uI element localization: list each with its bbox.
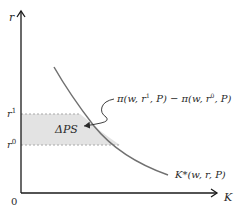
annotation-label: π(w, r1, P) − π(w, r0, P) — [116, 92, 231, 104]
origin-label: 0 — [11, 196, 17, 207]
curve-label: K*(w, r, P) — [174, 169, 226, 180]
y-axis-label: r — [9, 11, 15, 24]
area-label: ΔPS — [54, 123, 78, 136]
r1-label: r1 — [7, 107, 16, 119]
producer-surplus-diagram: r K 0 r1 r0 ΔPS K*(w, r, P) π(w, r1, P) … — [0, 0, 248, 211]
r0-label: r0 — [7, 138, 16, 150]
x-axis-label: K — [223, 191, 233, 204]
